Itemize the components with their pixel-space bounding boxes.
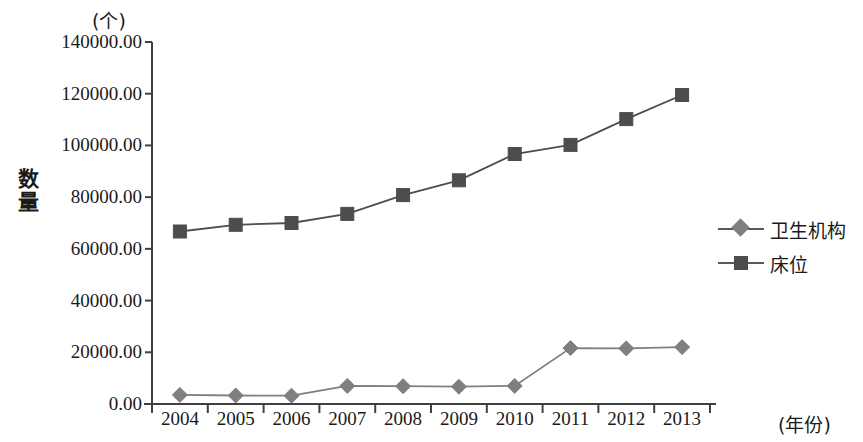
data-point-marker [452, 174, 465, 187]
series-line-0 [180, 347, 682, 396]
legend-label-0: 卫生机构 [770, 216, 846, 243]
series-0 [172, 340, 689, 404]
legend-item-1: 床位 [718, 246, 846, 280]
data-point-marker [619, 341, 634, 356]
data-point-marker [451, 379, 466, 394]
data-point-marker [507, 378, 522, 393]
legend-marker-square-icon [718, 253, 764, 273]
data-point-marker [228, 388, 243, 403]
data-point-marker [284, 388, 299, 403]
data-point-marker [172, 387, 187, 402]
line-chart: 数 量 (个) 0.0020000.0040000.0060000.008000… [0, 0, 863, 442]
data-point-marker [229, 218, 242, 231]
legend-marker-diamond-icon [718, 219, 764, 239]
data-point-marker [173, 225, 186, 238]
data-point-marker [396, 379, 411, 394]
data-point-marker [508, 148, 521, 161]
series-1 [173, 89, 688, 239]
data-point-marker [564, 138, 577, 151]
data-point-marker [341, 207, 354, 220]
data-point-marker [676, 89, 689, 102]
series-line-1 [180, 95, 682, 232]
chart-legend: 卫生机构 床位 [718, 212, 846, 280]
legend-label-1: 床位 [770, 250, 808, 277]
data-point-marker [340, 378, 355, 393]
data-point-marker [620, 113, 633, 126]
data-point-marker [563, 341, 578, 356]
data-point-marker [675, 340, 690, 355]
data-point-marker [397, 189, 410, 202]
data-point-marker [285, 217, 298, 230]
legend-item-0: 卫生机构 [718, 212, 846, 246]
